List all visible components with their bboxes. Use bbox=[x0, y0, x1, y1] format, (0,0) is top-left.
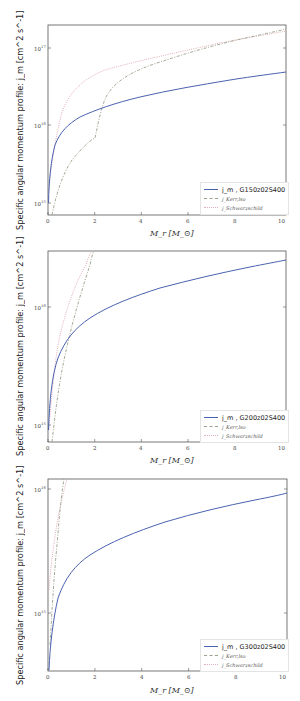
legend-item-kerr: j_Kerr,lso bbox=[204, 194, 285, 203]
legend-item-kerr: j_Kerr,lso bbox=[204, 422, 285, 431]
x-tick-0: 0 bbox=[46, 445, 50, 451]
x-tick-10: 10 bbox=[278, 445, 285, 451]
y-tick-1e15: 1015 bbox=[34, 421, 46, 429]
y-axis-label: Specific angular momentum profile: j_m [… bbox=[12, 479, 28, 671]
x-tick-10: 10 bbox=[279, 674, 286, 680]
y-tick-1e17: 1017 bbox=[34, 44, 46, 52]
x-tick-6: 6 bbox=[186, 445, 190, 451]
legend-item-schwarzschild: j_Schwarzschild bbox=[204, 203, 285, 212]
legend-item-schwarzschild: j_Schwarzschild bbox=[204, 660, 285, 669]
x-tick-8: 8 bbox=[233, 445, 237, 451]
x-tick-4: 4 bbox=[140, 674, 144, 680]
legend-item-kerr: j_Kerr,lso bbox=[204, 651, 285, 660]
x-tick-8: 8 bbox=[233, 218, 237, 224]
x-tick-2: 2 bbox=[93, 218, 97, 224]
y-tick-1e15: 1015 bbox=[34, 199, 46, 207]
y-tick-1e16: 1016 bbox=[34, 303, 46, 311]
x-axis-label: M_r [M_⊙] bbox=[150, 686, 194, 695]
x-tick-2: 2 bbox=[93, 445, 97, 451]
y-tick-1e15: 1015 bbox=[34, 609, 46, 617]
legend: j_m , G200z02S400 j_Kerr,lso j_Schwarzsc… bbox=[200, 410, 289, 443]
panel-3: Specific angular momentum profile: j_m [… bbox=[0, 470, 300, 701]
legend: j_m , G300z02S400 j_Kerr,lso j_Schwarzsc… bbox=[200, 639, 289, 672]
x-axis-label: M_r [M_⊙] bbox=[150, 229, 194, 238]
x-tick-4: 4 bbox=[139, 445, 143, 451]
legend-item-schwarzschild: j_Schwarzschild bbox=[204, 431, 285, 440]
x-tick-4: 4 bbox=[139, 218, 143, 224]
x-tick-2: 2 bbox=[93, 674, 97, 680]
x-tick-0: 0 bbox=[46, 674, 50, 680]
x-tick-6: 6 bbox=[186, 218, 190, 224]
x-tick-10: 10 bbox=[278, 218, 285, 224]
legend-item-jm: j_m , G300z02S400 bbox=[204, 642, 285, 651]
panel-2: Specific angular momentum profile: j_m [… bbox=[0, 240, 300, 470]
y-tick-1e16: 1016 bbox=[34, 485, 46, 493]
x-axis-label: M_r [M_⊙] bbox=[150, 456, 194, 465]
x-tick-8: 8 bbox=[234, 674, 238, 680]
y-axis-label: Specific angular momentum profile: j_m [… bbox=[12, 251, 28, 442]
y-axis-label: Specific angular momentum profile: j_m [… bbox=[12, 25, 28, 215]
y-tick-1e16: 1016 bbox=[34, 121, 46, 129]
legend-item-jm: j_m , G150z02S400 bbox=[204, 185, 285, 194]
legend: j_m , G150z02S400 j_Kerr,lso j_Schwarzsc… bbox=[200, 182, 289, 215]
legend-item-jm: j_m , G200z02S400 bbox=[204, 413, 285, 422]
x-tick-0: 0 bbox=[46, 218, 50, 224]
x-tick-6: 6 bbox=[187, 674, 191, 680]
panel-1: Specific angular momentum profile: j_m [… bbox=[0, 0, 300, 240]
